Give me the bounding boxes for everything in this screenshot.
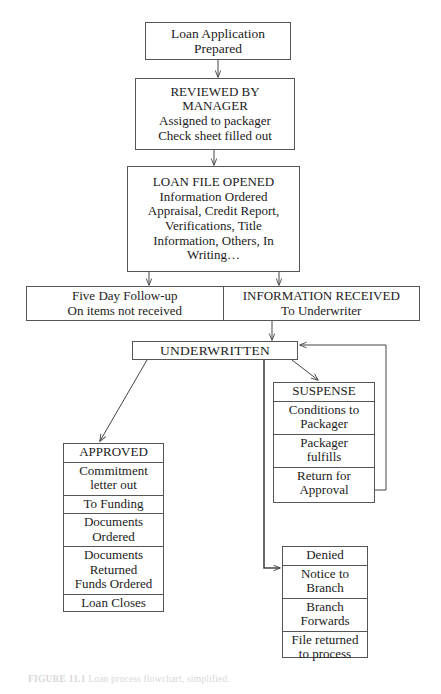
- suspense-band-return: Return for Approval: [274, 468, 374, 500]
- denied-band-header: Denied: [283, 547, 367, 566]
- node-line: Loan Closes: [66, 596, 161, 611]
- figure-caption: FIGURE 11.1 Loan process flowchart, simp…: [28, 674, 428, 684]
- node-followup-and-info-received-row: Five Day Follow-up On items not received…: [26, 286, 420, 321]
- node-line: Writing…: [128, 248, 299, 263]
- approved-band-header: APPROVED: [64, 444, 163, 463]
- node-line: Check sheet filled out: [136, 129, 294, 144]
- approved-band-documents-returned: Documents Returned Funds Ordered: [64, 547, 163, 595]
- node-line: Assigned to packager: [136, 114, 294, 129]
- node-line: UNDERWRITTEN: [133, 343, 297, 358]
- node-line: Loan Application: [146, 26, 290, 41]
- approved-band-commitment: Commitment letter out: [64, 463, 163, 496]
- denied-band-branch-forwards: Branch Forwards: [283, 599, 367, 632]
- node-line: Verifications, Title: [128, 219, 299, 234]
- node-line: Approval: [276, 483, 372, 498]
- node-line: fulfills: [276, 450, 372, 465]
- node-line: To Underwriter: [227, 304, 417, 319]
- node-line: letter out: [66, 478, 161, 493]
- node-line: On items not received: [30, 304, 220, 319]
- suspense-band-fulfills: Packager fulfills: [274, 435, 374, 468]
- node-line: Packager: [276, 417, 372, 432]
- node-line: Documents: [66, 515, 161, 530]
- node-line: Funds Ordered: [66, 577, 161, 592]
- node-line: Prepared: [146, 41, 290, 56]
- node-line: Return for: [276, 469, 372, 484]
- node-line: Documents: [66, 548, 161, 563]
- node-line: Information Ordered: [128, 190, 299, 205]
- node-line: Packager: [276, 436, 372, 451]
- node-five-day-follow-up[interactable]: Five Day Follow-up On items not received: [27, 287, 223, 320]
- node-underwritten[interactable]: UNDERWRITTEN: [132, 341, 298, 360]
- node-line: Branch: [285, 581, 365, 596]
- node-loan-file-opened[interactable]: LOAN FILE OPENED Information Ordered App…: [127, 166, 300, 272]
- node-line: LOAN FILE OPENED: [128, 175, 299, 190]
- node-line: MANAGER: [136, 99, 294, 114]
- node-line: SUSPENSE: [276, 384, 372, 399]
- node-line: Appraisal, Credit Report,: [128, 204, 299, 219]
- node-line: To Funding: [66, 497, 161, 512]
- node-line: Conditions to: [276, 403, 372, 418]
- node-line: File returned: [285, 633, 365, 648]
- approved-band-loan-closes: Loan Closes: [64, 595, 163, 613]
- node-line: to process: [285, 647, 365, 662]
- figure-caption-text: Loan process flowchart, simplified.: [88, 674, 230, 684]
- node-line: Five Day Follow-up: [30, 289, 220, 304]
- node-line: Information, Others, In: [128, 234, 299, 249]
- node-loan-application-prepared[interactable]: Loan Application Prepared: [145, 22, 291, 60]
- node-line: Branch: [285, 600, 365, 615]
- node-information-received[interactable]: INFORMATION RECEIVED To Underwriter: [223, 287, 420, 320]
- flowchart-canvas: Loan Application Prepared REVIEWED BY MA…: [0, 0, 441, 694]
- denied-band-file-returned: File returned to process: [283, 632, 367, 664]
- node-suspense[interactable]: SUSPENSE Conditions to Packager Packager…: [273, 382, 375, 503]
- denied-band-notice: Notice to Branch: [283, 566, 367, 599]
- figure-number: FIGURE 11.1: [28, 674, 86, 684]
- node-line: APPROVED: [66, 445, 161, 460]
- edge-underwritten-to-approved: [100, 360, 147, 441]
- approved-band-to-funding: To Funding: [64, 496, 163, 515]
- suspense-band-header: SUSPENSE: [274, 383, 374, 402]
- node-line: Returned: [66, 563, 161, 578]
- approved-band-documents-ordered: Documents Ordered: [64, 514, 163, 547]
- node-line: Ordered: [66, 530, 161, 545]
- node-line: Denied: [285, 548, 365, 563]
- node-denied[interactable]: Denied Notice to Branch Branch Forwards …: [282, 546, 368, 658]
- node-line: REVIEWED BY: [136, 85, 294, 100]
- node-line: Notice to: [285, 567, 365, 582]
- node-line: INFORMATION RECEIVED: [227, 289, 417, 304]
- edge-underwritten-to-suspense: [292, 360, 318, 380]
- suspense-band-conditions: Conditions to Packager: [274, 402, 374, 435]
- node-line: Commitment: [66, 464, 161, 479]
- node-approved[interactable]: APPROVED Commitment letter out To Fundin…: [63, 443, 164, 612]
- node-line: Forwards: [285, 614, 365, 629]
- node-reviewed-by-manager[interactable]: REVIEWED BY MANAGER Assigned to packager…: [135, 78, 295, 150]
